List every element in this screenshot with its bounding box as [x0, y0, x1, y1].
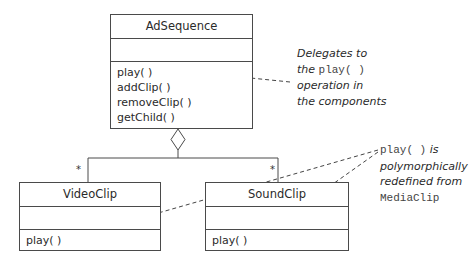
class-soundclip[interactable]: SoundClip play( )	[205, 182, 349, 251]
operations-compartment: play( )	[20, 230, 160, 248]
note-line: polymorphically	[380, 159, 468, 175]
note-line: the play( )	[297, 62, 387, 79]
multiplicity-soundclip: *	[270, 164, 275, 175]
note-line: Delegates to	[297, 46, 387, 62]
note-line: the components	[297, 94, 387, 110]
operation-getchild: getChild( )	[117, 110, 252, 125]
class-name: SoundClip	[206, 183, 348, 207]
class-adsequence[interactable]: AdSequence play( ) addClip( ) removeClip…	[110, 14, 253, 129]
attributes-compartment	[20, 207, 160, 230]
operation-play: play( )	[26, 233, 160, 248]
operation-removeclip: removeClip( )	[117, 95, 252, 110]
note-line: play( ) is	[380, 142, 468, 159]
attributes-compartment	[111, 39, 252, 62]
code-play: play( )	[380, 144, 426, 156]
note-delegates: Delegates to the play( ) operation in th…	[297, 46, 387, 109]
class-name: VideoClip	[20, 183, 160, 207]
class-videoclip[interactable]: VideoClip play( )	[19, 182, 161, 251]
operation-addclip: addClip( )	[117, 80, 252, 95]
aggregation-lines	[88, 150, 278, 182]
operation-play: play( )	[212, 233, 348, 248]
aggregation-diamond-icon	[171, 129, 185, 150]
multiplicity-videoclip: *	[76, 164, 81, 175]
operations-compartment: play( ) addClip( ) removeClip( ) getChil…	[111, 62, 252, 125]
note-line: operation in	[297, 78, 387, 94]
note-polymorphic: play( ) is polymorphically redefined fro…	[380, 142, 468, 206]
note-line: MediaClip	[380, 190, 468, 207]
class-name: AdSequence	[111, 15, 252, 39]
code-mediaclip: MediaClip	[380, 192, 439, 204]
operations-compartment: play( )	[206, 230, 348, 248]
note-line: redefined from	[380, 174, 468, 190]
code-play: play( )	[319, 64, 365, 76]
operation-play: play( )	[117, 65, 252, 80]
attributes-compartment	[206, 207, 348, 230]
